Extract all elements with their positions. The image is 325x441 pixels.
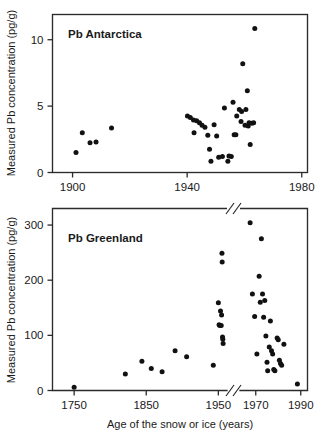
data-point — [270, 352, 275, 357]
data-point — [216, 300, 221, 305]
data-point — [94, 139, 99, 144]
data-point — [123, 371, 128, 376]
data-point — [219, 251, 224, 256]
data-point — [222, 106, 227, 111]
data-point — [272, 368, 277, 373]
data-point — [252, 314, 257, 319]
x-tick-label: 1980 — [289, 181, 315, 193]
data-point — [265, 368, 270, 373]
y-tick-label: 300 — [24, 219, 43, 231]
data-point — [276, 337, 281, 342]
data-point — [220, 154, 225, 159]
data-point — [88, 140, 93, 145]
data-point — [240, 61, 245, 66]
data-point — [239, 119, 244, 124]
data-point — [220, 337, 225, 342]
axis-break-top-slash-2 — [233, 203, 241, 214]
data-point — [231, 100, 236, 105]
greenland-y-ticks: 0100200300 — [24, 219, 52, 396]
data-point — [220, 260, 225, 265]
data-point — [239, 109, 244, 114]
y-tick-label: 10 — [31, 34, 44, 46]
data-point — [260, 291, 265, 296]
data-point — [295, 381, 300, 386]
data-point — [258, 300, 263, 305]
greenland-data-points — [72, 220, 300, 389]
x-tick-label: 1850 — [133, 399, 159, 411]
greenland-panel-title: Pb Greenland — [68, 232, 143, 244]
data-point — [252, 26, 257, 31]
data-point — [261, 315, 266, 320]
x-tick-label: 1900 — [60, 181, 86, 193]
antarctica-panel-title: Pb Antarctica — [68, 28, 142, 40]
data-point — [160, 369, 165, 374]
data-point — [149, 366, 154, 371]
data-point — [263, 333, 268, 338]
data-point — [245, 88, 250, 93]
axis-break-top-slash-1 — [226, 203, 234, 214]
data-point — [139, 359, 144, 364]
data-point — [259, 236, 264, 241]
data-point — [233, 132, 238, 137]
data-point — [192, 130, 197, 135]
data-point — [243, 107, 248, 112]
data-point — [205, 133, 210, 138]
x-tick-label: 1750 — [61, 399, 87, 411]
data-point — [202, 125, 207, 130]
data-point — [221, 341, 226, 346]
data-point — [184, 354, 189, 359]
antarctica-y-ticks: 0510 — [31, 34, 53, 179]
data-point — [257, 274, 262, 279]
data-point — [109, 126, 114, 131]
data-point — [234, 114, 239, 119]
x-tick-label: 1950 — [206, 399, 232, 411]
data-point — [254, 352, 259, 357]
data-point — [214, 133, 219, 138]
data-point — [173, 348, 178, 353]
data-point — [207, 147, 212, 152]
y-tick-label: 5 — [37, 100, 43, 112]
y-tick-label: 0 — [37, 385, 43, 397]
data-point — [268, 319, 273, 324]
y-tick-label: 0 — [37, 167, 43, 179]
data-point — [225, 159, 230, 164]
panel-greenland: Pb Greenland Measured Pb concentration (… — [5, 203, 314, 430]
greenland-plot-frame-right — [240, 209, 308, 391]
data-point — [251, 120, 256, 125]
data-point — [279, 363, 284, 368]
data-point — [248, 142, 253, 147]
y-tick-label: 200 — [24, 274, 43, 286]
data-point — [212, 122, 217, 127]
data-point — [208, 159, 213, 164]
data-point — [265, 360, 270, 365]
data-point — [211, 363, 216, 368]
x-tick-label: 1990 — [288, 399, 314, 411]
greenland-y-axis-label: Measured Pb concentration (pg/g) — [5, 217, 17, 383]
data-point — [73, 150, 78, 155]
figure-container: Pb Antarctica Measured Pb concentration … — [0, 0, 325, 441]
antarctica-x-ticks: 190019401980 — [60, 173, 315, 193]
greenland-x-axis-label: Age of the snow or ice (years) — [107, 418, 253, 430]
data-point — [281, 342, 286, 347]
data-point — [72, 385, 77, 390]
x-tick-label: 1940 — [174, 181, 200, 193]
greenland-x-ticks: 17501850195019701990 — [61, 391, 313, 411]
data-point — [250, 291, 255, 296]
antarctica-data-points — [73, 26, 257, 164]
data-point — [219, 323, 224, 328]
data-point — [219, 312, 224, 317]
panel-antarctica: Pb Antarctica Measured Pb concentration … — [5, 10, 315, 193]
data-point — [262, 298, 267, 303]
pb-concentration-figure: Pb Antarctica Measured Pb concentration … — [0, 0, 325, 441]
data-point — [229, 154, 234, 159]
antarctica-y-axis-label: Measured Pb concentration (pg/g) — [5, 10, 17, 176]
x-tick-label: 1970 — [243, 399, 269, 411]
y-tick-label: 100 — [24, 329, 43, 341]
data-point — [248, 220, 253, 225]
data-point — [80, 130, 85, 135]
